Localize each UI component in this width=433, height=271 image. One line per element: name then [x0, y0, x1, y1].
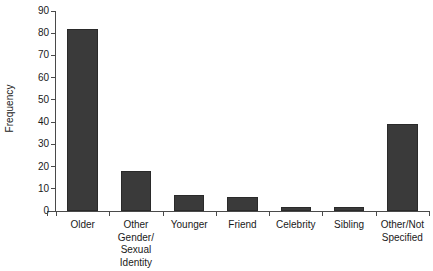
bars-container	[56, 11, 429, 211]
y-axis-tick-label: 30	[32, 139, 49, 149]
y-axis-tick: 80	[32, 28, 56, 38]
y-axis-tick: 50	[32, 95, 56, 105]
x-axis-tick-mark	[163, 211, 164, 216]
bar[interactable]	[387, 124, 417, 211]
y-axis-tick: 10	[32, 184, 56, 194]
x-axis-label-line: Other/Not	[377, 219, 428, 232]
x-axis-label: Older	[56, 219, 109, 232]
y-axis-tick: 70	[32, 50, 56, 60]
x-axis-label-line: Gender/	[110, 232, 161, 245]
bar-slot	[216, 11, 269, 211]
y-axis-tick-label: 40	[32, 117, 49, 127]
x-ticks	[47, 211, 429, 217]
bar[interactable]	[174, 195, 204, 211]
x-axis-tick-mark	[322, 211, 323, 216]
y-axis-tick: 60	[32, 73, 56, 83]
y-axis-tick: 20	[32, 162, 56, 172]
x-axis-label-line: Other	[110, 219, 161, 232]
bar-slot	[163, 11, 216, 211]
x-axis-tick-mark	[109, 211, 110, 216]
bar-slot	[269, 11, 322, 211]
x-axis-label: Other/NotSpecified	[376, 219, 429, 244]
x-axis-label-line: Sibling	[323, 219, 374, 232]
bar[interactable]	[121, 171, 151, 211]
y-axis-tick-label: 60	[32, 73, 49, 83]
bar-slot	[376, 11, 429, 211]
x-axis-label-line: Younger	[164, 219, 215, 232]
x-axis-label: Friend	[216, 219, 269, 232]
x-axis-tick-mark	[47, 211, 48, 216]
x-axis-labels: OlderOtherGender/SexualIdentityYoungerFr…	[56, 219, 429, 269]
bar-slot	[56, 11, 109, 211]
x-axis-tick-mark	[56, 211, 57, 216]
x-axis-tick-mark	[216, 211, 217, 216]
y-axis-title: Frequency	[0, 0, 18, 216]
x-axis-label-line: Sexual	[110, 244, 161, 257]
x-axis-label: Younger	[163, 219, 216, 232]
x-axis-label-line: Celebrity	[270, 219, 321, 232]
plot-area: 0102030405060708090	[56, 11, 429, 211]
y-axis-tick: 30	[32, 139, 56, 149]
x-axis-label-line: Older	[57, 219, 108, 232]
y-axis-tick-label: 10	[32, 184, 49, 194]
x-axis-label-line: Friend	[217, 219, 268, 232]
y-axis-tick-label: 70	[32, 50, 49, 60]
y-axis-tick-label: 20	[32, 162, 49, 172]
bar[interactable]	[227, 197, 257, 211]
bar[interactable]	[67, 29, 97, 211]
bar-slot	[322, 11, 375, 211]
x-axis-label-line: Specified	[377, 232, 428, 245]
x-axis-label: Celebrity	[269, 219, 322, 232]
bar-slot	[109, 11, 162, 211]
x-axis-tick-mark	[429, 211, 430, 216]
x-axis-label-line: Identity	[110, 257, 161, 270]
x-axis-label: Sibling	[322, 219, 375, 232]
x-axis-tick-mark	[269, 211, 270, 216]
y-axis-tick-label: 80	[32, 28, 49, 38]
y-axis-title-label: Frequency	[4, 84, 15, 132]
y-axis-tick: 90	[32, 6, 56, 16]
x-axis-tick-mark	[376, 211, 377, 216]
x-axis-label: OtherGender/SexualIdentity	[109, 219, 162, 269]
y-axis-tick-label: 50	[32, 95, 49, 105]
bar-chart-figure: Frequency 0102030405060708090 OlderOther…	[0, 0, 433, 271]
y-axis-tick: 40	[32, 117, 56, 127]
y-axis-tick-label: 90	[32, 6, 49, 16]
